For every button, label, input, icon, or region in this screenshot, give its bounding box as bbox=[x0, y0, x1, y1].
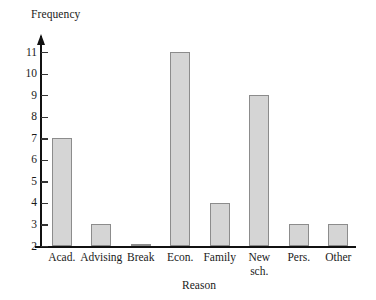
bar bbox=[249, 95, 269, 246]
y-axis-tick-label: 5 bbox=[15, 174, 37, 188]
x-axis-category-label: Family bbox=[203, 251, 236, 265]
bar bbox=[328, 224, 348, 246]
y-axis-tick-label: 2 bbox=[15, 239, 37, 253]
x-axis-line bbox=[35, 246, 356, 248]
bar bbox=[91, 224, 111, 246]
bar bbox=[131, 244, 151, 246]
y-axis-tick: 2 bbox=[41, 246, 48, 247]
x-axis-category-label: Break bbox=[127, 251, 154, 265]
bar bbox=[289, 224, 309, 246]
x-axis-title: Reason bbox=[0, 279, 376, 291]
bar bbox=[170, 52, 190, 246]
y-axis-tick-label: 3 bbox=[15, 217, 37, 231]
y-axis-tick-label: 8 bbox=[15, 109, 37, 123]
bar bbox=[52, 138, 72, 246]
y-axis-tick-label: 10 bbox=[15, 66, 37, 80]
y-axis-tick-label: 11 bbox=[15, 45, 37, 59]
bars-group bbox=[40, 30, 356, 246]
x-axis-category-label: Acad. bbox=[48, 251, 75, 265]
bar bbox=[210, 203, 230, 246]
bar-chart: Frequency 234567891011 Acad.AdvisingBrea… bbox=[0, 0, 376, 300]
x-axis-category-label: New sch. bbox=[248, 251, 270, 278]
y-axis-tick-label: 9 bbox=[15, 88, 37, 102]
y-axis-title: Frequency bbox=[31, 8, 80, 20]
y-axis-tick-label: 6 bbox=[15, 152, 37, 166]
x-axis-category-label: Other bbox=[325, 251, 351, 265]
y-axis-tick-label: 4 bbox=[15, 195, 37, 209]
x-axis-category-label: Advising bbox=[80, 251, 122, 265]
x-axis-category-label: Pers. bbox=[287, 251, 310, 265]
x-axis-category-label: Econ. bbox=[167, 251, 194, 265]
y-axis-tick-label: 7 bbox=[15, 131, 37, 145]
plot-area: 234567891011 Acad.AdvisingBreakEcon.Fami… bbox=[40, 30, 356, 246]
